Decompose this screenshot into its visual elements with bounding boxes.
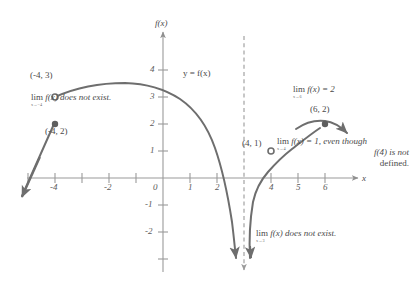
y-tick-label-2: 2 — [150, 118, 155, 128]
lim-subscript-6: x→6 — [293, 91, 302, 102]
annotation-4-line2: f(4) is not — [277, 147, 409, 158]
curve-right-branch-down-arrow — [250, 246, 251, 258]
y-tick-label-4: 4 — [150, 64, 155, 74]
x-axis — [27, 173, 358, 183]
left-ray-arrow — [22, 157, 40, 197]
annotation-body-4: f(x) = 1, even though — [291, 136, 367, 146]
annotation-4-line1: lim x→4 f(x) = 1, even though — [277, 136, 409, 147]
point-label-4-1: (4, 1) — [242, 138, 262, 148]
lim-operator-3: lim x→3 — [256, 228, 268, 239]
annotation-limit-6-equals-2: lim x→6 f(x) = 2 — [293, 84, 335, 95]
x-axis-title: x — [362, 173, 366, 183]
lim-operator-4: lim x→4 — [277, 136, 289, 147]
lim-operator-6: lim x→6 — [293, 84, 305, 95]
x-tick-label-neg4: -4 — [50, 182, 58, 192]
y-tick-label-1: 1 — [150, 145, 155, 155]
x-tick-label-2: 2 — [215, 182, 220, 192]
y-tick-label-3: 3 — [150, 91, 155, 101]
lim-operator-neg4: lim x→−4 — [31, 92, 43, 103]
point-label-neg4-2: (-4, 2) — [45, 126, 68, 136]
annotation-limit-4-equals-1: lim x→4 f(x) = 1, even though f(4) is no… — [277, 136, 409, 169]
x-tick-label-6: 6 — [323, 182, 328, 192]
annotation-body-3: f(x) does not exist. — [270, 228, 336, 238]
x-tick-label-neg2: -2 — [104, 182, 112, 192]
point-label-neg4-3: (-4, 3) — [30, 70, 53, 80]
x-tick-label-5: 5 — [296, 182, 301, 192]
x-tick-label-1: 1 — [188, 182, 193, 192]
open-circle-marker-4-1 — [268, 148, 274, 154]
curve-right-branch-tail — [296, 121, 347, 133]
annotation-body-6: f(x) = 2 — [307, 84, 335, 94]
point-label-6-2: (6, 2) — [310, 104, 330, 114]
lim-subscript-4: x→4 — [277, 143, 286, 154]
lim-subscript-3: x→3 — [256, 235, 265, 246]
x-tick-label-4: 4 — [269, 182, 274, 192]
annotation-body-neg4: f(x) does not exist. — [45, 92, 111, 102]
annotation-limit-neg4-dne: lim x→−4 f(x) does not exist. — [31, 92, 111, 103]
y-tick-label-neg2: -2 — [145, 226, 153, 236]
lim-subscript-neg4: x→−4 — [31, 99, 42, 110]
x-tick-label-0: 0 — [153, 182, 158, 192]
annotation-4-line3: defined. — [277, 158, 409, 169]
curve-label-y-equals-fx: y = f(x) — [183, 68, 211, 78]
closed-dot-marker-6-2 — [322, 121, 328, 127]
y-axis — [158, 32, 168, 272]
annotation-limit-3-dne: lim x→3 f(x) does not exist. — [256, 228, 336, 239]
y-axis-title: f(x) — [155, 18, 168, 28]
y-tick-label-neg1: -1 — [145, 199, 153, 209]
